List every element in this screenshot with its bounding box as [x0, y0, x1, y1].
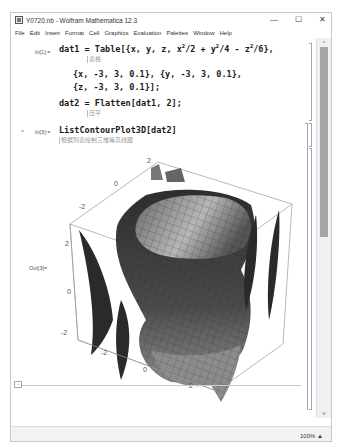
in3-cell-bracket[interactable] [309, 123, 312, 147]
menu-cell[interactable]: Cell [89, 30, 99, 36]
in3-code[interactable]: ListContourPlot3D[dat2] [59, 125, 177, 135]
in1-cell-bracket[interactable] [309, 43, 312, 121]
tick-label: -2 [79, 203, 85, 210]
mathematica-window: Y0720.nb - Wolfram Mathematica 12.3 — ☐ … [10, 12, 332, 442]
menu-format[interactable]: Format [65, 30, 84, 36]
menu-bar: File Edit Insert Format Cell Graphics Ev… [11, 27, 232, 38]
menu-palettes[interactable]: Palettes [166, 30, 188, 36]
contour-plot-3d[interactable]: 2 0 -2 2 0 -2 -2 0 2 [51, 150, 301, 410]
code-text: /2 + y [185, 44, 216, 54]
new-cell-button[interactable]: + [14, 381, 22, 388]
notebook-area[interactable]: In[1]:= dat1 = Table[{x, y, z, x2/2 + y2… [11, 38, 317, 410]
menu-help[interactable]: Help [219, 30, 231, 36]
collapse-toggle[interactable]: ^ [21, 129, 24, 135]
zoom-level: 100% [300, 433, 315, 439]
out3-cell-bracket[interactable] [309, 148, 312, 410]
scrollbar-thumb[interactable] [320, 47, 328, 237]
scroll-up-arrow[interactable]: ^ [317, 40, 331, 46]
close-button[interactable]: ✕ [317, 14, 327, 25]
flatten-hint: 压平 [87, 110, 101, 117]
in3-label: In[3]:= [35, 129, 50, 135]
window-title: Y0720.nb - Wolfram Mathematica 12.3 [26, 17, 137, 24]
tick-label: 0 [67, 288, 71, 295]
title-bar: Y0720.nb - Wolfram Mathematica 12.3 — ☐ … [11, 13, 331, 27]
in1-code-line4[interactable]: dat2 = Flatten[dat1, 2]; [59, 98, 182, 108]
left-sheet [79, 230, 113, 355]
group-cell-bracket[interactable] [305, 123, 308, 410]
window-controls: — ☐ ✕ [269, 14, 327, 25]
code-text: /4 - z [219, 44, 250, 54]
tick-label: 2 [65, 240, 69, 247]
minimize-button[interactable]: — [269, 14, 279, 25]
vertical-scrollbar[interactable]: ^ v [316, 38, 331, 418]
tick-label: 0 [143, 366, 147, 373]
tick-label: 0 [114, 180, 118, 187]
zoom-menu-arrow-icon[interactable]: ▲ [317, 433, 323, 439]
status-bar: 100% ▲ [11, 426, 331, 441]
code-text: dat1 = Table[{x, y, z, x [59, 44, 182, 54]
in1-code-line1[interactable]: dat1 = Table[{x, y, z, x2/2 + y2/4 - z2/… [59, 43, 274, 54]
mathematica-app-icon [15, 16, 23, 24]
listcontourplot3d-hint: 根据列表绘制三维等高线图 [59, 137, 133, 144]
menu-window[interactable]: Window [193, 30, 214, 36]
tick-label: -2 [61, 329, 67, 336]
tick-label: 2 [147, 157, 151, 164]
cell-insertion-line [21, 385, 301, 386]
menu-edit[interactable]: Edit [30, 30, 40, 36]
scroll-down-arrow[interactable]: v [317, 410, 331, 416]
zoom-control[interactable]: 100% ▲ [300, 433, 323, 439]
code-text: /6}, [253, 44, 273, 54]
in1-label: In[1]:= [35, 49, 50, 55]
tick-label: -2 [101, 349, 107, 356]
menu-graphics[interactable]: Graphics [104, 30, 128, 36]
menu-evaluation[interactable]: Evaluation [133, 30, 161, 36]
in1-code-line2[interactable]: {x, -3, 3, 0.1}, {y, -3, 3, 0.1}, [73, 69, 242, 79]
menu-file[interactable]: File [15, 30, 25, 36]
out3-label: Out[3]= [29, 265, 47, 271]
menu-insert[interactable]: Insert [45, 30, 60, 36]
maximize-button[interactable]: ☐ [293, 14, 303, 25]
table-hint: 表格 [87, 56, 101, 63]
in1-code-line3[interactable]: {z, -3, 3, 0.1}]; [73, 82, 160, 92]
